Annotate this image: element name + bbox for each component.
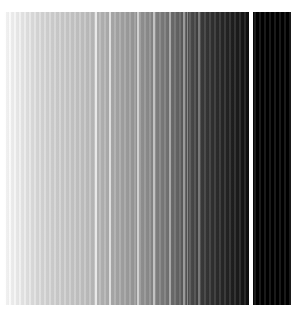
light-stripe (198, 12, 200, 305)
light-stripe (169, 12, 171, 305)
light-stripe (183, 12, 185, 305)
light-stripe (95, 12, 97, 305)
stripe-texture (4, 12, 291, 305)
light-stripe (249, 12, 253, 305)
light-stripe (153, 12, 155, 305)
light-stripe (137, 12, 139, 305)
light-stripe (109, 12, 111, 305)
grayscale-gradient-image (4, 12, 291, 305)
light-stripe (187, 12, 188, 305)
